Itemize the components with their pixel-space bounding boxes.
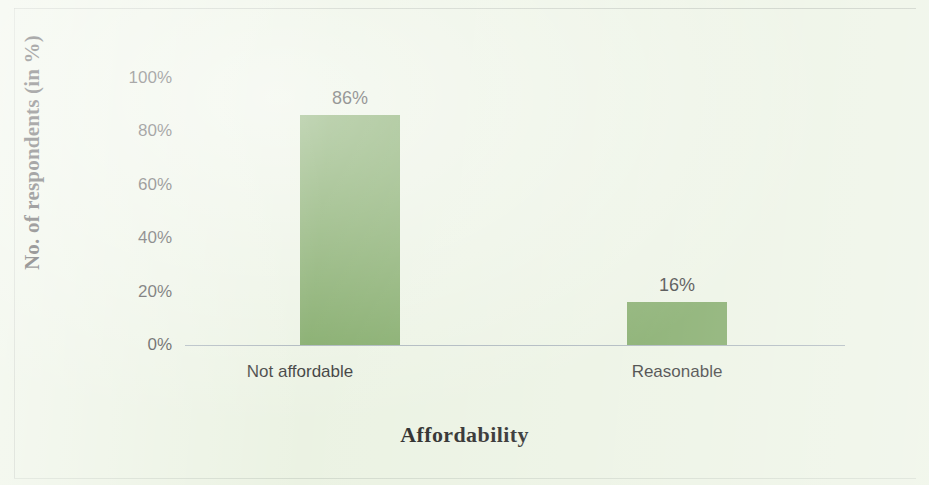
bar-chart-figure: No. of respondents (in %) 100% 80% 60% 4… <box>0 0 929 485</box>
y-tick-label: 0% <box>100 335 172 355</box>
bar-value-label: 16% <box>627 275 727 296</box>
y-tick-label: 80% <box>100 121 172 141</box>
y-tick-label: 40% <box>100 228 172 248</box>
x-axis-title: Affordability <box>0 422 929 448</box>
y-axis-tick-labels: 100% 80% 60% 40% 20% 0% <box>100 0 172 485</box>
y-tick-label: 100% <box>100 68 172 88</box>
bar-group: 16% <box>627 78 727 345</box>
x-tick-label-reasonable: Reasonable <box>607 362 747 382</box>
y-axis-title: No. of respondents (in %) <box>20 0 45 363</box>
plot-area: 86% 16% <box>185 78 845 345</box>
bar-value-label: 86% <box>300 88 400 109</box>
x-tick-label-not-affordable: Not affordable <box>230 362 370 382</box>
bar-group: 86% <box>300 78 400 345</box>
y-tick-label: 60% <box>100 175 172 195</box>
x-axis-baseline <box>185 345 845 346</box>
bar-reasonable[interactable] <box>627 302 727 345</box>
y-tick-label: 20% <box>100 282 172 302</box>
bar-not-affordable[interactable] <box>300 115 400 345</box>
page-edge-left-line <box>14 8 15 478</box>
